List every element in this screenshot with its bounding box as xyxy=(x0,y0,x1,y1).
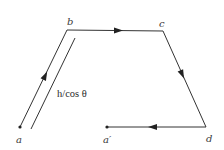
dimension-line xyxy=(31,38,75,129)
arrow-right-icon xyxy=(114,28,123,34)
arrow-down-icon xyxy=(178,69,187,80)
label-d: d xyxy=(206,133,212,144)
label-a: a xyxy=(16,134,22,145)
segment-c-d xyxy=(163,31,206,127)
loop-diagram: a b c d a′ h/cos θ xyxy=(0,0,224,150)
label-a-prime: a′ xyxy=(103,134,112,145)
label-b: b xyxy=(67,16,73,27)
point-a-prime-dot xyxy=(105,125,108,128)
label-c: c xyxy=(159,18,165,29)
arrow-up-icon xyxy=(41,70,50,81)
arrow-left-icon xyxy=(148,124,157,130)
point-a-dot xyxy=(18,125,21,128)
dimension-label: h/cos θ xyxy=(57,88,87,99)
